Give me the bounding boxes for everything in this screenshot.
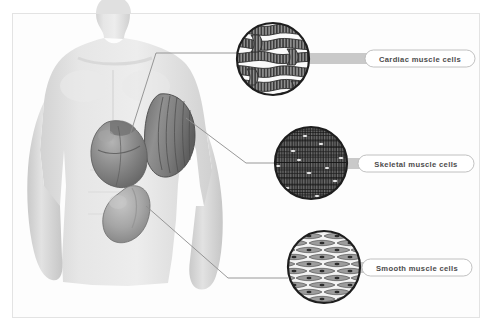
callout-smooth[interactable]: Smooth muscle cells	[269, 223, 472, 311]
smooth-label-text: Smooth muscle cells	[376, 264, 458, 273]
diagram-canvas: Cardiac muscle cells Skeletal muscle cel…	[0, 0, 492, 330]
muscle-tissue-illustration: Cardiac muscle cells Skeletal muscle cel…	[0, 0, 492, 330]
skeletal-label-text: Skeletal muscle cells	[374, 160, 457, 169]
callout-cardiac[interactable]: Cardiac muscle cells	[227, 15, 475, 105]
cardiac-label-text: Cardiac muscle cells	[379, 55, 461, 64]
callout-skeletal[interactable]: Skeletal muscle cells	[267, 119, 474, 207]
